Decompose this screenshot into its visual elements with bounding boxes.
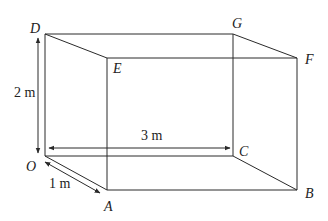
width-label: 1 m [49,176,71,191]
vertex-label-O: O [26,159,36,174]
vertex-label-C: C [239,144,249,159]
height-label: 2 m [14,85,36,100]
edge-GF [233,34,297,58]
vertex-label-G: G [232,16,242,31]
cuboid-diagram: 2 m 3 m 1 m D E G F O C A B [0,0,328,221]
vertex-label-F: F [304,52,314,67]
dimension-arrows [38,38,230,193]
vertex-label-D: D [29,21,40,36]
length-label: 3 m [141,128,163,143]
vertex-label-B: B [305,186,314,201]
edge-DE [45,34,107,58]
cuboid-edges [45,34,297,190]
vertex-label-E: E [112,61,122,76]
edge-CB [233,156,297,190]
vertex-label-A: A [103,199,113,214]
